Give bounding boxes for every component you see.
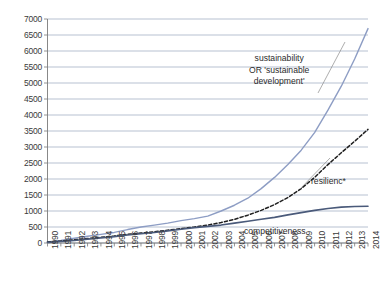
- x-axis-label: 2009: [305, 231, 314, 249]
- x-axis-label: 1994: [105, 231, 114, 249]
- y-axis-label: 5500: [2, 63, 42, 72]
- x-axis-label: 2011: [332, 232, 341, 249]
- x-axis-label: 1992: [78, 231, 87, 249]
- y-axis-label: 1000: [2, 207, 42, 216]
- y-axis-label: 4000: [2, 111, 42, 120]
- y-axis-label: 7000: [2, 15, 42, 24]
- y-axis-label: 6000: [2, 47, 42, 56]
- x-axis-label: 2000: [185, 231, 194, 249]
- y-axis-label: 4500: [2, 95, 42, 104]
- x-axis-label: 2003: [225, 231, 234, 249]
- annotation-line: OR 'sustainable: [249, 65, 309, 77]
- y-axis-label: 2000: [2, 175, 42, 184]
- resilience-label: resilienc*: [311, 176, 346, 188]
- chart-container: 0500100015002000250030003500400045005000…: [0, 0, 382, 284]
- x-axis-label: 1993: [91, 231, 100, 249]
- x-axis-label: 1995: [118, 231, 127, 249]
- annotation-line: sustainability: [249, 53, 309, 65]
- y-axis-label: 3000: [2, 143, 42, 152]
- y-axis-ticks: [44, 19, 48, 243]
- x-axis-label: 2002: [211, 231, 220, 249]
- x-axis-label: 2014: [372, 231, 381, 249]
- x-axis-label: 2010: [318, 231, 327, 249]
- annotation-line: development': [249, 76, 309, 88]
- y-axis-label: 500: [2, 223, 42, 232]
- x-axis-label: 2001: [198, 231, 207, 249]
- competitiveness-label: competitiveness: [244, 226, 306, 238]
- y-axis-label: 2500: [2, 159, 42, 168]
- x-axis-label: 1990: [51, 231, 60, 249]
- y-axis-label: 3500: [2, 127, 42, 136]
- x-axis-label: 1999: [171, 231, 180, 249]
- sustainability-label: sustainabilityOR 'sustainabledevelopment…: [249, 53, 309, 88]
- x-axis-label: 2012: [345, 231, 354, 249]
- y-axis-label: 0: [2, 239, 42, 248]
- x-axis-label: 1991: [64, 231, 73, 249]
- x-axis-label: 1996: [131, 231, 140, 249]
- y-axis-label: 5000: [2, 79, 42, 88]
- x-axis-label: 2013: [358, 231, 367, 249]
- x-axis-label: 1998: [158, 231, 167, 249]
- y-axis-label: 1500: [2, 191, 42, 200]
- y-axis-label: 6500: [2, 31, 42, 40]
- x-axis-label: 1997: [145, 231, 154, 249]
